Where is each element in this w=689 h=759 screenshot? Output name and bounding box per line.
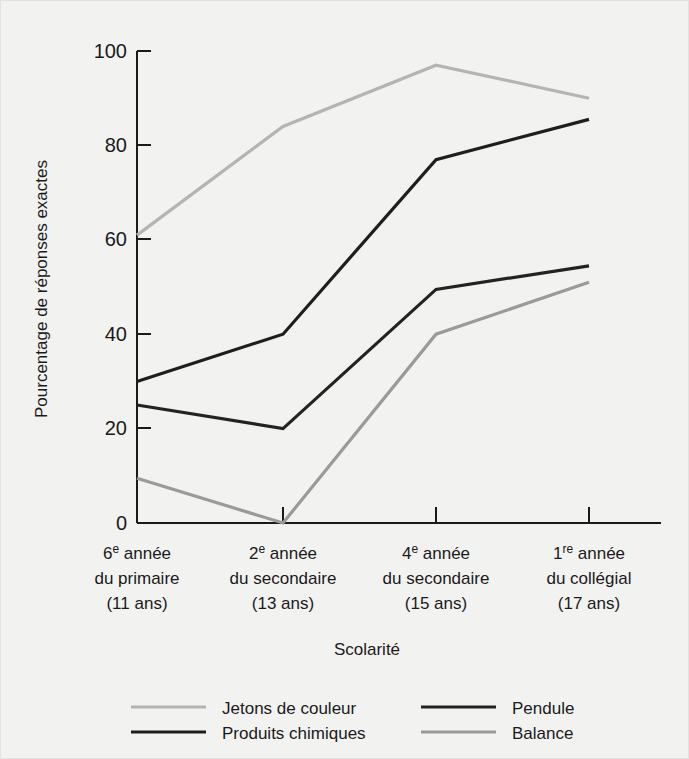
svg-text:6e année: 6e année [103,542,171,563]
legend-label-jetons-de-couleur: Jetons de couleur [222,699,357,718]
chart-svg: Pourcentage de réponses exactes 100 80 6… [1,1,689,759]
cat3-num: 1 [553,544,562,563]
series-lines [137,65,589,523]
y-axis-title-text: Pourcentage de réponses exactes [32,160,51,418]
legend-item-jetons-de-couleur[interactable]: Jetons de couleur [131,699,357,718]
svg-text:1re année: 1re année [553,542,625,563]
cat3-line2: du collégial [546,569,631,588]
cat2-num: 4 [402,544,411,563]
cat0-line3: (11 ans) [106,594,167,613]
x-category-labels: 6e année du primaire (11 ans) 2e année d… [94,542,631,613]
legend-label-produits-chimiques: Produits chimiques [222,724,366,743]
y-tick-labels: 100 80 60 40 20 0 [94,40,127,534]
x-category-label-3: 1re année du collégial (17 ans) [546,542,631,613]
y-tick-label-40: 40 [105,323,127,345]
svg-text:4e année: 4e année [402,542,470,563]
cat2-rest: année [418,544,470,563]
x-tick-marks [283,507,589,523]
legend-item-balance[interactable]: Balance [421,724,573,743]
chart-legend: Jetons de couleur Produits chimiques Pen… [131,699,574,743]
cat1-line2: du secondaire [230,569,337,588]
cat0-line2: du primaire [94,569,179,588]
series-line-balance [137,282,589,523]
x-axis-title-text: Scolarité [334,640,400,659]
cat0-num: 6 [103,544,112,563]
y-tick-label-100: 100 [94,40,127,62]
cat2-line3: (15 ans) [405,594,467,613]
cat3-rest: année [573,544,625,563]
cat3-sup: re [562,542,573,556]
chart-page: Pourcentage de réponses exactes 100 80 6… [0,0,689,759]
svg-text:2e année: 2e année [249,542,317,563]
legend-label-balance: Balance [512,724,573,743]
line-chart-figure: Pourcentage de réponses exactes 100 80 6… [1,1,688,758]
series-line-pendule [137,266,589,429]
x-category-label-0: 6e année du primaire (11 ans) [94,542,179,613]
legend-label-pendule: Pendule [512,699,574,718]
series-line-produits-chimiques [137,119,589,381]
cat3-line3: (17 ans) [558,594,620,613]
cat1-num: 2 [249,544,258,563]
cat0-rest: année [119,544,171,563]
series-line-jetons-de-couleur [137,65,589,235]
y-tick-label-0: 0 [116,512,127,534]
y-tick-label-20: 20 [105,417,127,439]
y-tick-label-60: 60 [105,228,127,250]
cat1-line3: (13 ans) [252,594,314,613]
legend-item-produits-chimiques[interactable]: Produits chimiques [131,724,366,743]
y-tick-marks [137,51,151,428]
legend-item-pendule[interactable]: Pendule [421,699,574,718]
y-axis-title: Pourcentage de réponses exactes [32,160,51,418]
x-category-label-1: 2e année du secondaire (13 ans) [230,542,337,613]
cat1-rest: année [265,544,317,563]
cat2-line2: du secondaire [383,569,490,588]
x-category-label-2: 4e année du secondaire (15 ans) [383,542,490,613]
y-tick-label-80: 80 [105,134,127,156]
